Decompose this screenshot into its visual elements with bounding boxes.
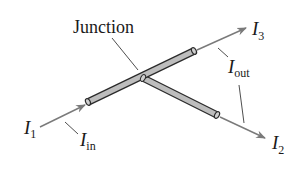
junction-diagram: Junction I1 Iin I3 Iout I2 xyxy=(0,0,297,171)
i-out-leader-lower xyxy=(239,85,244,123)
arrow-i3 xyxy=(197,28,246,50)
label-i2: I2 xyxy=(271,132,284,157)
i-out-leader-upper xyxy=(218,48,228,57)
label-i1: I1 xyxy=(23,117,36,141)
branch-wire xyxy=(143,78,221,119)
junction-leader xyxy=(112,38,138,70)
label-i-in: Iin xyxy=(79,129,96,153)
label-i3: I3 xyxy=(251,18,264,43)
i-in-leader xyxy=(65,122,78,134)
arrow-i2 xyxy=(220,117,265,138)
junction-label: Junction xyxy=(73,17,134,37)
label-i-out: Iout xyxy=(227,56,250,80)
arrow-i-in xyxy=(40,105,85,127)
